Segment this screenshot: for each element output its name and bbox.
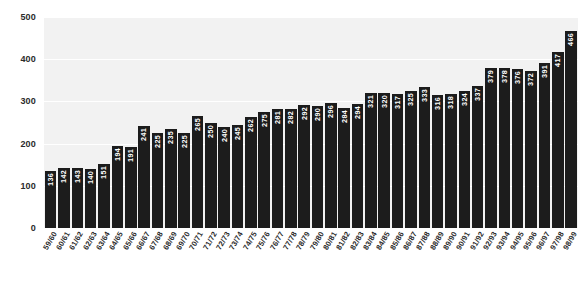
x-axis-tick: 80/81 (325, 229, 337, 287)
x-axis-tick: 96/97 (539, 229, 551, 287)
bar-value-label: 194 (114, 148, 121, 161)
bar: 151 (98, 164, 110, 228)
bar: 140 (85, 169, 97, 228)
x-axis-tick: 70/71 (192, 229, 204, 287)
bar: 321 (365, 93, 377, 228)
bar: 262 (245, 117, 257, 228)
bar: 337 (472, 86, 484, 228)
bar-chart: 0100200300400500 13614214314015119419124… (0, 0, 582, 287)
bar: 235 (165, 129, 177, 228)
bar: 325 (405, 91, 417, 228)
bar: 284 (338, 108, 350, 228)
bar: 245 (232, 125, 244, 228)
y-axis-tick-label: 100 (20, 181, 36, 191)
bar: 466 (565, 31, 577, 228)
bar-value-label: 191 (127, 149, 134, 162)
x-axis-tick: 81/82 (338, 229, 350, 287)
x-axis-tick: 72/73 (218, 229, 230, 287)
x-axis-tick: 87/88 (419, 229, 431, 287)
bar-value-label: 284 (341, 110, 348, 123)
bar-value-label: 292 (301, 107, 308, 120)
bar-value-label: 245 (234, 127, 241, 140)
bar: 275 (258, 112, 270, 228)
bar: 333 (419, 87, 431, 228)
bar-value-label: 250 (207, 125, 214, 138)
x-axis-tick: 59/60 (45, 229, 57, 287)
x-axis-tick: 82/83 (352, 229, 364, 287)
bar-value-label: 372 (527, 73, 534, 86)
bar-value-label: 378 (501, 70, 508, 83)
bar-value-label: 337 (474, 88, 481, 101)
bar: 225 (152, 133, 164, 228)
y-axis-tick-label: 400 (20, 54, 36, 64)
x-axis-tick: 68/69 (165, 229, 177, 287)
y-axis-tick-label: 500 (20, 12, 36, 22)
bar: 417 (552, 52, 564, 228)
bar-value-label: 417 (554, 54, 561, 67)
x-axis-tick: 91/92 (472, 229, 484, 287)
x-axis-tick: 98/99 (565, 229, 577, 287)
bar-value-label: 333 (421, 89, 428, 102)
x-axis-tick: 89/90 (445, 229, 457, 287)
bar-value-label: 275 (261, 114, 268, 127)
y-axis-tick-label: 300 (20, 96, 36, 106)
x-axis-tick: 71/72 (205, 229, 217, 287)
bar-value-label: 225 (181, 135, 188, 148)
bar-value-label: 262 (247, 119, 254, 132)
bar-value-label: 325 (407, 93, 414, 106)
bar-value-label: 296 (327, 105, 334, 118)
bar: 296 (325, 103, 337, 228)
bar-value-label: 142 (60, 170, 67, 183)
y-axis-tick-label: 0 (31, 223, 36, 233)
bar: 378 (499, 68, 511, 228)
bar-value-label: 136 (47, 173, 54, 186)
x-axis-tick: 88/89 (432, 229, 444, 287)
x-axis-tick: 78/79 (298, 229, 310, 287)
bar: 191 (125, 147, 137, 228)
bar: 265 (192, 116, 204, 228)
bar: 281 (272, 109, 284, 228)
x-axis-tick: 73/74 (232, 229, 244, 287)
bar-value-label: 320 (381, 95, 388, 108)
x-axis-tick: 67/68 (152, 229, 164, 287)
bar: 290 (312, 106, 324, 228)
x-axis-tick: 84/85 (378, 229, 390, 287)
x-axis-tick: 79/80 (312, 229, 324, 287)
bar: 376 (512, 69, 524, 228)
bar-value-label: 225 (154, 135, 161, 148)
bar-value-label: 265 (194, 118, 201, 131)
bar-value-label: 235 (167, 131, 174, 144)
bar-value-label: 241 (140, 128, 147, 141)
x-axis-tick: 63/64 (98, 229, 110, 287)
bar: 316 (432, 95, 444, 228)
bar-value-label: 240 (221, 129, 228, 142)
bar-value-label: 321 (367, 95, 374, 108)
x-axis-tick: 93/94 (499, 229, 511, 287)
bar: 282 (285, 109, 297, 228)
bar-value-label: 391 (541, 65, 548, 78)
x-axis-tick: 75/76 (258, 229, 270, 287)
bar: 194 (112, 146, 124, 228)
bar: 241 (138, 126, 150, 228)
bar: 324 (459, 91, 471, 228)
bar: 143 (72, 168, 84, 228)
x-axis-tick: 92/93 (485, 229, 497, 287)
x-axis-tick: 61/62 (72, 229, 84, 287)
x-axis-tick: 97/98 (552, 229, 564, 287)
bar-value-label: 316 (434, 97, 441, 110)
bar-value-label: 324 (461, 93, 468, 106)
x-axis-tick: 64/65 (112, 229, 124, 287)
bar-value-label: 290 (314, 108, 321, 121)
bar-value-label: 143 (74, 170, 81, 183)
x-axis-tick: 74/75 (245, 229, 257, 287)
bar: 292 (298, 105, 310, 228)
bar-value-label: 466 (567, 33, 574, 46)
x-axis-tick: 62/63 (85, 229, 97, 287)
bar-value-label: 140 (87, 171, 94, 184)
x-axis-tick: 85/86 (392, 229, 404, 287)
bar: 294 (352, 104, 364, 228)
y-axis: 0100200300400500 (0, 17, 40, 228)
x-axis-tick: 94/95 (512, 229, 524, 287)
bar: 318 (445, 94, 457, 228)
bar: 142 (58, 168, 70, 228)
